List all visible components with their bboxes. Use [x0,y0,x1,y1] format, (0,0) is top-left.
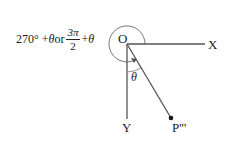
y-axis-label: Y [122,121,131,134]
formula-plus: + [82,32,89,47]
fraction-denominator: 2 [70,40,76,52]
angle-formula: 270° + θ or 3π 2 + θ [16,27,94,52]
fraction-3pi-over-2: 3π 2 [66,27,79,52]
formula-or: or [54,32,64,47]
theta-label: θ [131,71,137,83]
formula-theta-2: θ [88,32,94,47]
origin-label: O [118,32,127,45]
formula-part1: 270° + [16,32,49,47]
diagram-canvas [0,0,225,146]
x-axis-label: X [208,38,217,51]
fraction-numerator: 3π [66,27,79,40]
point-label: P''' [172,121,186,134]
